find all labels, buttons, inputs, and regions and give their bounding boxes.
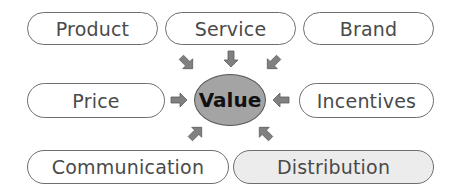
- arrow-incentives-icon: [273, 93, 289, 107]
- arrow-distribution-icon: [254, 122, 275, 143]
- arrows-layer: [0, 0, 461, 195]
- arrow-communication-icon: [185, 122, 206, 143]
- arrow-brand-icon: [262, 52, 283, 73]
- arrow-product-icon: [176, 52, 197, 73]
- arrow-service-icon: [224, 51, 238, 67]
- arrow-price-icon: [171, 93, 187, 107]
